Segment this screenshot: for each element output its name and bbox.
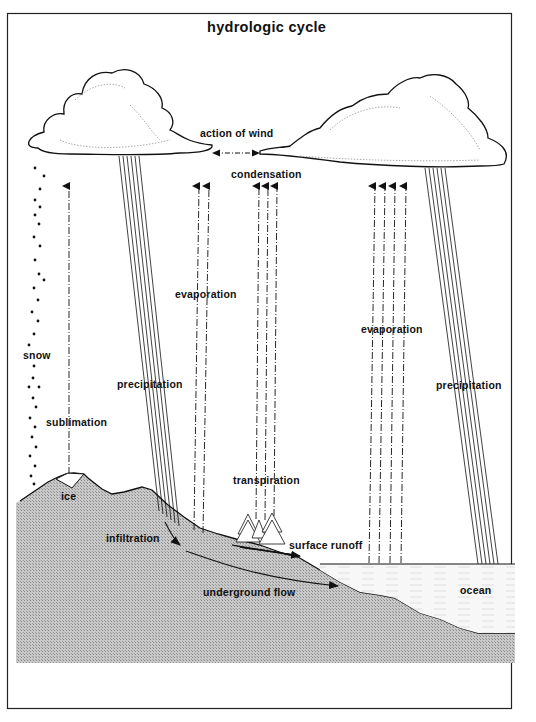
- label-snow: snow: [23, 349, 51, 361]
- label-condensation: condensation: [231, 168, 302, 180]
- label-action-of-wind: action of wind: [200, 127, 273, 139]
- rain-streaks-ocean: [425, 168, 498, 564]
- snowfall-dots: [28, 167, 46, 486]
- rain-streaks: [119, 156, 179, 526]
- wind-double-arrow: [212, 150, 260, 157]
- label-surface-runoff: surface runoff: [289, 539, 362, 551]
- label-sublimation: sublimation: [46, 416, 107, 428]
- diagram-canvas: [0, 0, 536, 722]
- evaporation-land-arrows: [194, 186, 209, 533]
- left-cloud: [29, 70, 213, 155]
- label-ice: ice: [61, 490, 76, 502]
- right-cloud: [260, 75, 506, 167]
- evaporation-ocean-arrows: [369, 186, 406, 563]
- label-infiltration: infiltration: [106, 532, 160, 544]
- transpiration-arrows: [256, 186, 277, 520]
- label-precipitation-land: precipitation: [117, 378, 183, 390]
- label-evaporation-land: evaporation: [175, 288, 237, 300]
- label-precipitation-ocean: precipitation: [436, 379, 502, 391]
- diagram-title: hydrologic cycle: [207, 19, 326, 35]
- label-ocean: ocean: [460, 584, 491, 596]
- label-evaporation-ocean: evaporation: [361, 323, 423, 335]
- label-underground-flow: underground flow: [203, 586, 295, 598]
- label-transpiration: transpiration: [233, 474, 300, 486]
- hydrologic-cycle-diagram: hydrologic cycle action of wind condensa…: [0, 0, 536, 722]
